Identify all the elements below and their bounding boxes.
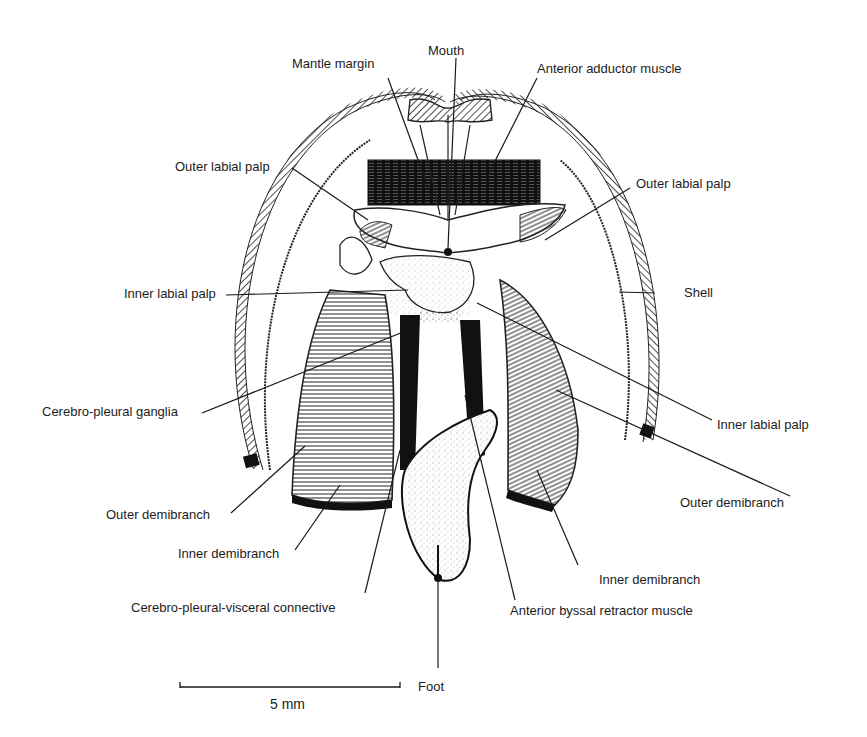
foot-drawing xyxy=(402,410,497,582)
label-inner-labial-palp-left: Inner labial palp xyxy=(124,287,216,300)
label-cerebro-pleural-ganglia: Cerebro-pleural ganglia xyxy=(42,405,178,418)
label-mouth: Mouth xyxy=(428,44,464,57)
leader-lines xyxy=(202,58,790,668)
label-outer-demibranch-right: Outer demibranch xyxy=(680,496,784,509)
label-mantle-margin: Mantle margin xyxy=(292,57,374,70)
scale-bar-label: 5 mm xyxy=(270,697,305,711)
label-inner-labial-palp-right: Inner labial palp xyxy=(717,418,809,431)
label-outer-labial-palp-left: Outer labial palp xyxy=(175,160,270,173)
label-anterior-adductor-muscle: Anterior adductor muscle xyxy=(537,62,682,75)
label-outer-labial-palp-right: Outer labial palp xyxy=(636,177,731,190)
label-foot: Foot xyxy=(418,680,444,693)
scale-bar xyxy=(180,682,400,688)
anatomy-drawing xyxy=(0,0,867,737)
label-shell: Shell xyxy=(684,286,713,299)
label-cerebro-pleural-visceral-connective: Cerebro-pleural-visceral connective xyxy=(131,601,335,614)
label-outer-demibranch-left: Outer demibranch xyxy=(106,508,210,521)
label-anterior-byssal-retractor-muscle: Anterior byssal retractor muscle xyxy=(510,604,693,617)
label-inner-demibranch-right: Inner demibranch xyxy=(599,573,700,586)
anatomy-figure: Mouth Mantle margin Anterior adductor mu… xyxy=(0,0,867,737)
label-inner-demibranch-left: Inner demibranch xyxy=(178,547,279,560)
